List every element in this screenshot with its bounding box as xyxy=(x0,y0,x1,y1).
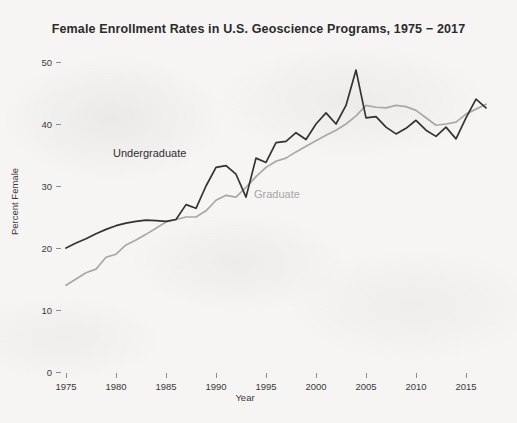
series-lines xyxy=(0,0,517,423)
undergraduate-line xyxy=(66,70,486,248)
series-annotation-graduate: Graduate xyxy=(254,188,300,200)
series-annotation-undergraduate: Undergraduate xyxy=(113,147,186,159)
plot-area: 50 40 30 20 10 0 Percent Female 1975 198… xyxy=(0,0,517,423)
chart-page: Female Enrollment Rates in U.S. Geoscien… xyxy=(0,0,517,423)
